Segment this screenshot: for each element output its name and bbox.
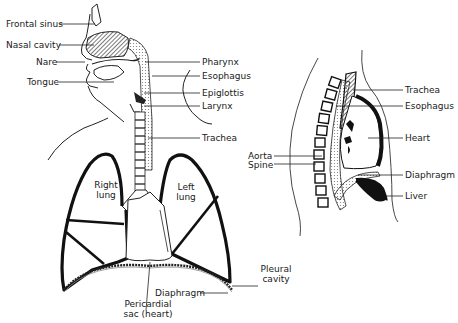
- label-left-lung-line1: Left: [172, 182, 200, 192]
- label-left-lung: Left lung: [172, 182, 200, 202]
- label-right-lung-line2: lung: [90, 190, 122, 200]
- liver-side: [356, 178, 388, 202]
- label-pleural-cavity: Pleural cavity: [258, 264, 294, 284]
- label-frontal-sinus: Frontal sinus: [6, 19, 63, 29]
- respiratory-system-diagram: Frontal sinus Nasal cavity Nare Tongue P…: [0, 0, 458, 323]
- label-pericardial-sac: Pericardial sac (heart): [120, 299, 176, 319]
- label-larynx: Larynx: [202, 101, 233, 111]
- trachea-rings: [135, 112, 145, 192]
- label-left-lung-line2: lung: [172, 192, 200, 202]
- label-right-lung-line1: Right: [90, 180, 122, 190]
- label-side-liver: Liver: [405, 191, 427, 201]
- pericardial-sac: [126, 192, 172, 261]
- label-side-spine: Spine: [248, 160, 273, 170]
- label-epiglottis: Epiglottis: [202, 88, 244, 98]
- label-diaphragm: Diaphragm: [155, 288, 205, 298]
- label-nare: Nare: [36, 57, 57, 67]
- label-side-esophagus: Esophagus: [405, 101, 454, 111]
- label-pleural-cavity-line2: cavity: [258, 274, 294, 284]
- tongue-shape: [94, 66, 124, 81]
- label-side-heart: Heart: [405, 133, 430, 143]
- label-trachea: Trachea: [202, 133, 237, 143]
- label-side-trachea: Trachea: [405, 85, 440, 95]
- label-side-diaphragm: Diaphragm: [405, 170, 455, 180]
- label-pericardial-sac-line1: Pericardial: [120, 299, 176, 309]
- label-pericardial-sac-line2: sac (heart): [120, 309, 176, 319]
- label-pharynx: Pharynx: [202, 57, 239, 67]
- label-nasal-cavity: Nasal cavity: [6, 40, 61, 50]
- anatomy-illustration: [0, 0, 458, 323]
- label-pleural-cavity-line1: Pleural: [258, 264, 294, 274]
- label-right-lung: Right lung: [90, 180, 122, 200]
- left-lung: [160, 155, 230, 282]
- label-tongue: Tongue: [27, 77, 59, 87]
- label-esophagus: Esophagus: [202, 71, 251, 81]
